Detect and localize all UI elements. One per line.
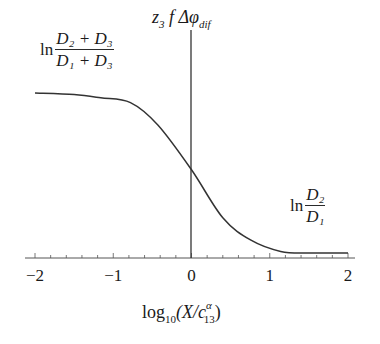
x-title-post: ): [215, 302, 221, 322]
upper-asymptote-label: ln D₂ + D₃ D₁ + D₃: [40, 28, 114, 71]
x-tick-label: −1: [104, 266, 122, 286]
x-title-sub: 10: [165, 313, 176, 325]
x-axis: [25, 253, 355, 258]
ln-text: ln: [40, 40, 53, 60]
x-title-mid: (X/c: [176, 302, 206, 322]
y-title-rest: f Δφ: [165, 7, 200, 27]
x-tick-label: 0: [187, 266, 196, 286]
fraction-numerator: D₂ + D₃: [55, 28, 113, 49]
x-title-sub2: 13: [204, 313, 215, 325]
fraction-numerator: D₂: [305, 184, 325, 205]
x-tick-label: 2: [344, 266, 353, 286]
x-tick-label: −2: [26, 266, 44, 286]
x-axis-title: log10(X/cα13): [142, 302, 221, 325]
y-axis-title: z3 f Δφdif: [152, 8, 211, 30]
y-title-z: z: [152, 7, 159, 27]
x-title-sup: α: [206, 299, 212, 311]
fraction-denominator: D₁: [305, 206, 325, 227]
y-title-sub2: dif: [199, 18, 211, 30]
x-title-log: log: [142, 302, 165, 322]
lower-asymptote-label: ln D₂ D₁: [290, 184, 325, 227]
fraction-denominator: D₁ + D₃: [55, 50, 113, 71]
x-tick-label: 1: [266, 266, 275, 286]
ln-text: ln: [290, 196, 303, 216]
